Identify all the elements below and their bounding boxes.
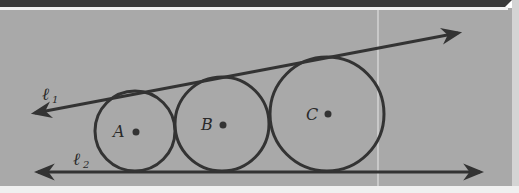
top-white-strip (0, 7, 508, 10)
label-l1: ℓ (42, 84, 49, 104)
center-dot-a (133, 129, 140, 136)
diagram-canvas: A B C ℓ 1 ℓ 2 (0, 0, 519, 193)
label-l1-subscript: 1 (52, 94, 58, 105)
label-a: A (111, 122, 125, 141)
center-dot-b (220, 122, 227, 129)
label-b: B (200, 115, 213, 134)
right-margin-strip (512, 0, 519, 193)
tangent-circles-figure: A B C ℓ 1 ℓ 2 (0, 0, 519, 193)
label-l2: ℓ (73, 149, 80, 169)
label-c: C (306, 105, 318, 124)
center-dot-c (325, 111, 332, 118)
top-dark-band (0, 0, 512, 7)
label-l2-subscript: 2 (82, 159, 89, 170)
bottom-white-strip (0, 186, 519, 193)
